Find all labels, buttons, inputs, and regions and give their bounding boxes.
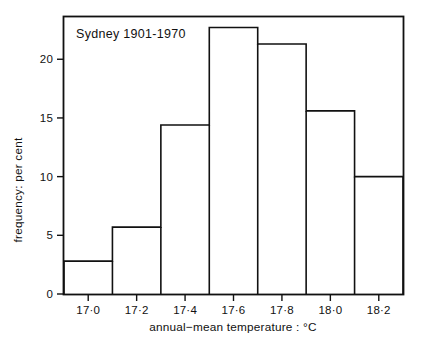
chart-canvas: 05101520 17·017·217·417·617·818·018·2 Sy… <box>0 0 424 343</box>
x-tick-label: 17·6 <box>222 304 246 316</box>
x-axis-tick-labels: 17·017·217·417·617·818·018·2 <box>76 304 390 316</box>
histogram-bars <box>64 28 403 294</box>
y-tick-label: 20 <box>40 53 53 65</box>
x-axis-title: annual−mean temperature : °C <box>149 320 317 334</box>
x-tick-label: 17·2 <box>125 304 149 316</box>
x-tick-label: 18·2 <box>367 304 391 316</box>
histogram-figure: 05101520 17·017·217·417·617·818·018·2 Sy… <box>0 0 424 343</box>
x-tick-label: 17·4 <box>173 304 197 316</box>
y-axis-title: frequency: per cent <box>11 137 25 242</box>
y-tick-label: 0 <box>46 288 53 300</box>
y-tick-label: 5 <box>46 229 53 241</box>
y-tick-label: 15 <box>40 112 53 124</box>
x-tick-label: 17·0 <box>76 304 100 316</box>
y-tick-label: 10 <box>40 171 53 183</box>
y-axis-tick-labels: 05101520 <box>40 53 53 300</box>
histogram-outline <box>64 28 403 294</box>
x-tick-label: 18·0 <box>318 304 342 316</box>
plot-frame <box>64 17 404 295</box>
chart-title-annotation: Sydney 1901-1970 <box>76 27 186 41</box>
x-tick-label: 17·8 <box>270 304 294 316</box>
